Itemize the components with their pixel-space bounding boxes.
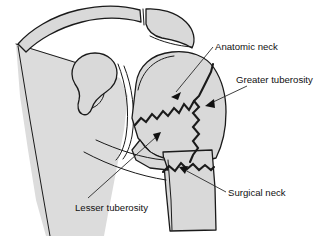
clavicle [18, 6, 141, 52]
label-surgical-neck: Surgical neck [228, 187, 286, 198]
anatomy-figure: Anatomic neck Greater tuberosity Surgica… [0, 0, 327, 236]
acromioclavicular-joint [143, 9, 144, 25]
label-greater-tuberosity: Greater tuberosity [236, 74, 313, 85]
label-anatomic-neck: Anatomic neck [215, 41, 278, 52]
acromion [146, 9, 194, 48]
proximal-humerus-illustration: Anatomic neck Greater tuberosity Surgica… [0, 0, 327, 236]
label-lesser-tuberosity: Lesser tuberosity [75, 202, 148, 213]
